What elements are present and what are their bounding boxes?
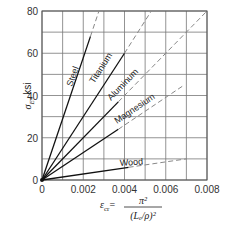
- series-lines: [40, 11, 207, 182]
- line-wood-solid: [42, 167, 129, 180]
- y-tick-label: 80: [27, 6, 39, 17]
- x-label-denominator: (Lₑ/ρ)²: [130, 210, 156, 222]
- label-steel: Steel: [64, 65, 80, 88]
- y-label-unit: , ksi: [22, 83, 33, 101]
- x-tick-label: 0.008: [194, 184, 219, 195]
- origin-point: [40, 178, 44, 182]
- x-tick-label: 0: [39, 184, 45, 195]
- y-tick-label: 0: [32, 175, 38, 186]
- line-steel-dashed: [90, 11, 98, 36]
- y-tick-label: 60: [27, 48, 39, 59]
- x-label-eq: =: [109, 199, 115, 210]
- y-tick-label: 20: [27, 133, 39, 144]
- label-titanium: Titanium: [87, 51, 114, 85]
- x-axis-label: εcr= π² (Lₑ/ρ)²: [100, 195, 162, 222]
- line-aluminum-dashed: [118, 11, 207, 102]
- line-aluminum-solid: [42, 102, 118, 180]
- x-axis-ticks: 00.0020.0040.0060.008: [39, 184, 220, 195]
- x-tick-label: 0.006: [153, 184, 178, 195]
- line-magnesium-solid: [42, 129, 118, 180]
- label-magnesium: Magnesium: [113, 91, 157, 125]
- x-tick-label: 0.004: [112, 184, 137, 195]
- x-label-numerator: π²: [139, 195, 148, 206]
- euler-buckling-chart: 00.0020.0040.0060.008 020406080 Steel Ti…: [0, 0, 226, 227]
- x-tick-label: 0.002: [71, 184, 96, 195]
- svg-text:εcr=: εcr=: [100, 199, 115, 213]
- label-wood: Wood: [119, 156, 143, 168]
